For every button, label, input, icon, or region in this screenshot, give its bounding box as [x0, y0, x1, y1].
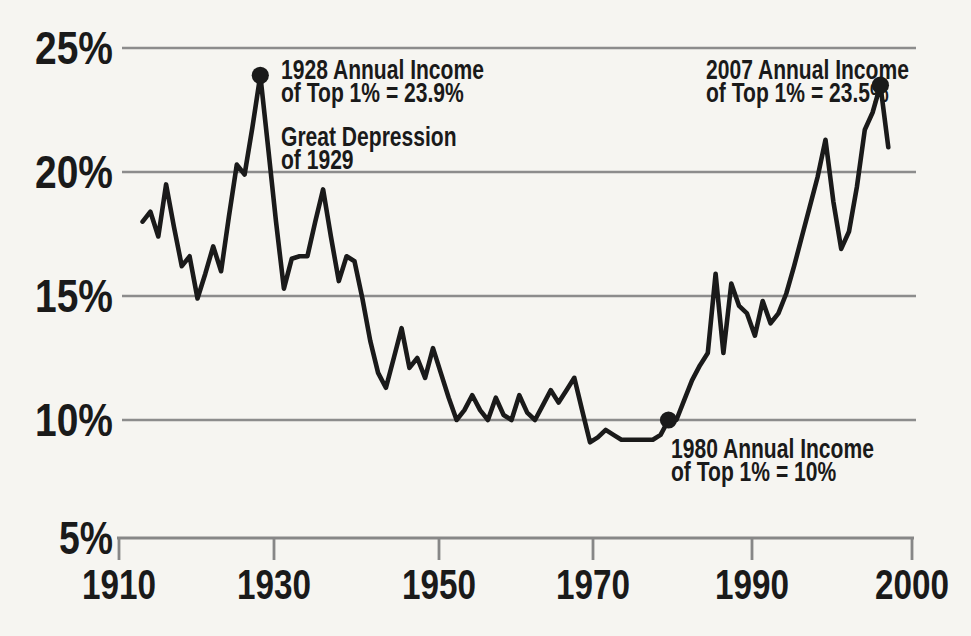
annotation-2007-line2: of Top 1% = 23.5% [706, 82, 909, 105]
income-share-line [143, 75, 889, 442]
data-point-marker-1980 [660, 411, 677, 428]
annotation-2007-peak: 2007 Annual Income of Top 1% = 23.5% [706, 59, 909, 105]
data-point-marker-1928 [252, 67, 269, 84]
annotation-1980-low: 1980 Annual Income of Top 1% = 10% [671, 438, 874, 484]
annotation-1928-line2: of Top 1% = 23.9% [281, 82, 484, 105]
annotation-1928-peak: 1928 Annual Income of Top 1% = 23.9% [281, 59, 484, 105]
annotation-depression-line2: of 1929 [281, 149, 457, 172]
y-tick-label-25: 25% [35, 22, 113, 74]
y-tick-label-10: 10% [35, 394, 113, 446]
annotation-1980-line2: of Top 1% = 10% [671, 461, 874, 484]
annotation-great-depression: Great Depression of 1929 [281, 126, 457, 172]
y-tick-label-20: 20% [35, 146, 113, 198]
x-tick-label-1970: 1970 [556, 561, 630, 608]
x-tick-label-1910: 1910 [82, 561, 156, 608]
x-tick-label-1930: 1930 [237, 561, 311, 608]
x-tick-label-1990: 1990 [715, 561, 789, 608]
x-tick-label-1950: 1950 [402, 561, 476, 608]
y-tick-label-5: 5% [59, 512, 113, 564]
chart-canvas: 25%20%15%10%5%191019301950197019902000 1… [0, 0, 971, 636]
y-tick-label-15: 15% [35, 270, 113, 322]
x-tick-label-2000: 2000 [875, 561, 949, 608]
